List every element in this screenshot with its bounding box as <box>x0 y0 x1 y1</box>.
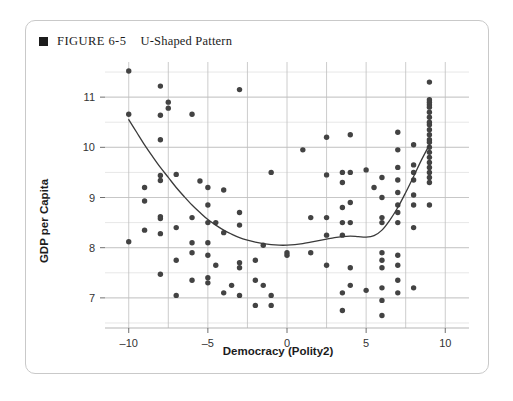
data-point <box>324 215 329 220</box>
y-tick-label: 8 <box>89 242 95 254</box>
data-point <box>237 210 242 215</box>
data-point <box>379 195 384 200</box>
data-point <box>340 220 345 225</box>
data-point <box>363 288 368 293</box>
data-point <box>348 220 353 225</box>
data-point <box>142 185 147 190</box>
data-point <box>427 160 432 165</box>
data-point <box>427 132 432 137</box>
data-point <box>174 225 179 230</box>
data-point <box>324 263 329 268</box>
data-point <box>308 215 313 220</box>
data-point <box>427 165 432 170</box>
data-point <box>237 260 242 265</box>
data-point <box>205 185 210 190</box>
data-point <box>379 285 384 290</box>
data-point <box>427 180 432 185</box>
data-point <box>213 263 218 268</box>
data-point <box>427 79 432 84</box>
y-tick-label: 10 <box>83 141 95 153</box>
data-point <box>348 200 353 205</box>
data-point <box>363 167 368 172</box>
data-point <box>158 216 163 221</box>
data-point <box>395 290 400 295</box>
data-point <box>174 293 179 298</box>
data-point <box>142 198 147 203</box>
data-point <box>395 190 400 195</box>
data-point <box>158 231 163 236</box>
data-point <box>395 253 400 258</box>
y-tick-label: 7 <box>89 292 95 304</box>
y-tick-label: 11 <box>84 91 95 103</box>
data-point <box>268 293 273 298</box>
data-point <box>427 150 432 155</box>
data-point <box>395 165 400 170</box>
data-point <box>395 278 400 283</box>
x-tick-label: –5 <box>202 337 214 349</box>
data-point <box>411 162 416 167</box>
data-point <box>221 187 226 192</box>
data-point <box>324 172 329 177</box>
data-point <box>158 178 163 183</box>
data-point <box>284 253 289 258</box>
x-tick-label: –10 <box>120 337 138 349</box>
data-point <box>379 265 384 270</box>
data-point <box>237 87 242 92</box>
data-point <box>340 308 345 313</box>
data-point <box>348 132 353 137</box>
data-point <box>411 202 416 207</box>
data-point <box>395 147 400 152</box>
data-point <box>189 112 194 117</box>
y-tick-label: 9 <box>89 192 95 204</box>
data-point <box>427 104 432 109</box>
data-point <box>324 135 329 140</box>
chart-svg: 7891011 –10–50510 GDP per Capita Democra… <box>26 21 490 375</box>
data-point <box>427 202 432 207</box>
data-point <box>261 283 266 288</box>
data-point <box>348 265 353 270</box>
data-point <box>379 258 384 263</box>
data-point <box>427 115 432 120</box>
data-point <box>205 275 210 280</box>
data-point <box>395 130 400 135</box>
data-point <box>308 250 313 255</box>
data-point <box>205 280 210 285</box>
figure-card: FIGURE 6-5 U-Shaped Pattern 7891011 –10–… <box>25 20 489 374</box>
data-point <box>340 205 345 210</box>
data-point <box>229 283 234 288</box>
data-point <box>237 293 242 298</box>
data-point <box>189 240 194 245</box>
data-point <box>221 290 226 295</box>
data-point <box>253 278 258 283</box>
data-point <box>253 258 258 263</box>
data-point <box>189 250 194 255</box>
data-point <box>379 298 384 303</box>
data-point <box>427 155 432 160</box>
data-point <box>379 220 384 225</box>
data-point <box>379 313 384 318</box>
data-point <box>340 170 345 175</box>
data-point <box>340 290 345 295</box>
data-point <box>427 109 432 114</box>
data-point <box>427 175 432 180</box>
data-point <box>340 180 345 185</box>
data-point <box>411 285 416 290</box>
data-point <box>411 192 416 197</box>
data-point <box>166 105 171 110</box>
data-point <box>158 173 163 178</box>
data-point <box>411 142 416 147</box>
data-point <box>174 172 179 177</box>
x-axis-title: Democracy (Polity2) <box>223 345 334 357</box>
data-point <box>158 113 163 118</box>
data-point <box>371 185 376 190</box>
data-point <box>237 222 242 227</box>
data-point <box>348 170 353 175</box>
data-point <box>205 240 210 245</box>
data-point <box>205 253 210 258</box>
data-point <box>348 283 353 288</box>
data-point <box>174 258 179 263</box>
data-point <box>158 137 163 142</box>
data-point <box>253 303 258 308</box>
data-point <box>268 170 273 175</box>
data-point <box>126 112 131 117</box>
